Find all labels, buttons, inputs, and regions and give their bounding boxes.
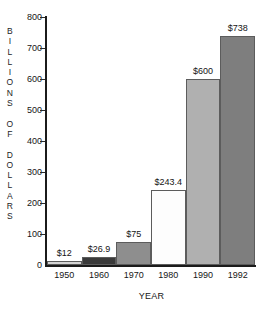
bar-slot: $600 xyxy=(186,17,221,265)
x-axis-tick-label: 1970 xyxy=(116,270,151,280)
x-axis-line xyxy=(45,265,256,267)
x-axis-tick-label: 1990 xyxy=(186,270,221,280)
bar-slot: $26.9 xyxy=(82,17,117,265)
bar-series: $12$26.9$75$243.4$600$738 xyxy=(47,17,255,265)
y-axis-tick-label: 700 xyxy=(16,44,42,53)
y-axis-tick-label: 600 xyxy=(16,75,42,84)
y-axis-tick-label: 500 xyxy=(16,106,42,115)
bar xyxy=(47,261,82,265)
y-axis-tickmark xyxy=(40,79,45,80)
y-axis-tick-label: 300 xyxy=(16,168,42,177)
y-axis-tickmark xyxy=(40,203,45,204)
bar-slot: $75 xyxy=(116,17,151,265)
y-axis-tickmark xyxy=(40,17,45,18)
y-axis-tick-label: 400 xyxy=(16,137,42,146)
y-axis-tickmark xyxy=(40,110,45,111)
y-axis-tickmark xyxy=(40,141,45,142)
bar xyxy=(151,190,186,265)
bar-chart: B I L L I O N S O F D O L L A R S 010020… xyxy=(0,0,267,312)
bar-slot: $243.4 xyxy=(151,17,186,265)
y-axis-tick-label: 0 xyxy=(16,261,42,270)
x-axis-tick-label: 1960 xyxy=(82,270,117,280)
y-axis-tickmark xyxy=(40,48,45,49)
x-axis-tick-label: 1980 xyxy=(151,270,186,280)
y-axis-tickmark xyxy=(40,172,45,173)
y-axis-tick-label: 800 xyxy=(16,13,42,22)
bar xyxy=(220,36,255,265)
bar-slot: $738 xyxy=(220,17,255,265)
bar-slot: $12 xyxy=(47,17,82,265)
y-axis-tick-labels: 0100200300400500600700800 xyxy=(14,0,42,312)
y-axis-tick-label: 200 xyxy=(16,199,42,208)
x-axis-title: YEAR xyxy=(0,291,267,301)
bar xyxy=(116,242,151,265)
y-axis-tick-label: 100 xyxy=(16,230,42,239)
y-axis-tickmark xyxy=(40,234,45,235)
x-axis-tick-label: 1992 xyxy=(220,270,255,280)
bar xyxy=(82,257,117,265)
bar-value-label: $738 xyxy=(211,24,264,33)
x-axis-tick-labels: 195019601970198019901992 xyxy=(47,270,255,282)
bar xyxy=(186,79,221,265)
x-axis-tick-label: 1950 xyxy=(47,270,82,280)
